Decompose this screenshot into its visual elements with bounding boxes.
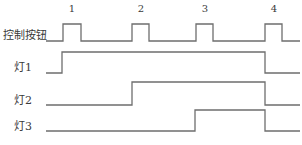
waveform-button — [46, 24, 300, 41]
waveform-lamp3 — [46, 110, 300, 131]
waveforms — [0, 0, 302, 145]
waveform-lamp1 — [46, 52, 300, 73]
waveform-lamp2 — [46, 82, 300, 105]
